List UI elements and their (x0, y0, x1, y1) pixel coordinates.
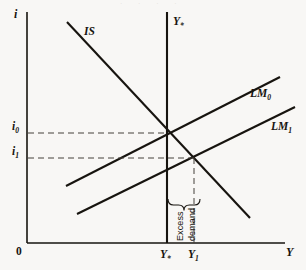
is-curve (67, 22, 250, 218)
excess-demand-label-line2: demand (187, 208, 197, 241)
diagram-canvas (0, 0, 306, 270)
y-axis-label: i (14, 8, 17, 20)
excess-demand-label-line1: Excess (175, 211, 185, 241)
curve-label-lm1: LM1 (271, 121, 292, 135)
tick-label-y1-base: Y (188, 248, 195, 260)
curve-label-is: IS (84, 26, 95, 40)
tick-label-i1: i1 (12, 146, 19, 160)
tick-label-y1-sub: 1 (195, 254, 199, 263)
curve-label-lm0-base: LM (250, 87, 267, 99)
origin-label: 0 (16, 246, 22, 258)
tick-label-y-star-base: Y (160, 248, 167, 260)
curve-label-y-star-base: Y (173, 15, 180, 27)
curve-label-is-base: IS (84, 25, 95, 37)
lm0-curve (66, 77, 280, 186)
lm1-curve (77, 107, 295, 214)
curve-label-lm1-base: LM (271, 120, 288, 132)
tick-label-y-star: Y* (160, 249, 171, 263)
curve-label-lm0-sub: 0 (267, 93, 271, 102)
x-axis-label: Y (286, 246, 293, 258)
tick-label-i0: i0 (12, 121, 19, 135)
tick-label-i1-sub: 1 (15, 151, 19, 160)
curve-label-lm1-sub: 1 (288, 126, 292, 135)
tick-label-y1: Y1 (188, 249, 199, 263)
curve-label-y-star-sub: * (180, 21, 184, 30)
curve-label-y-star: Y* (173, 16, 184, 30)
curve-label-lm0: LM0 (250, 88, 271, 102)
is-lm-figure: · · · · i Y 0 i0 i1 Y* Y1 (0, 0, 306, 270)
tick-label-y-star-sub: * (167, 254, 171, 263)
tick-label-i0-sub: 0 (15, 126, 19, 135)
